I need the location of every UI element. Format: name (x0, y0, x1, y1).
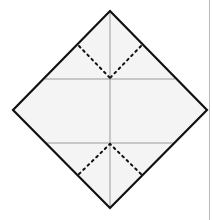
page-edge-line (209, 0, 210, 220)
origami-diagram (0, 0, 212, 220)
fold-diagram-svg (0, 0, 212, 220)
